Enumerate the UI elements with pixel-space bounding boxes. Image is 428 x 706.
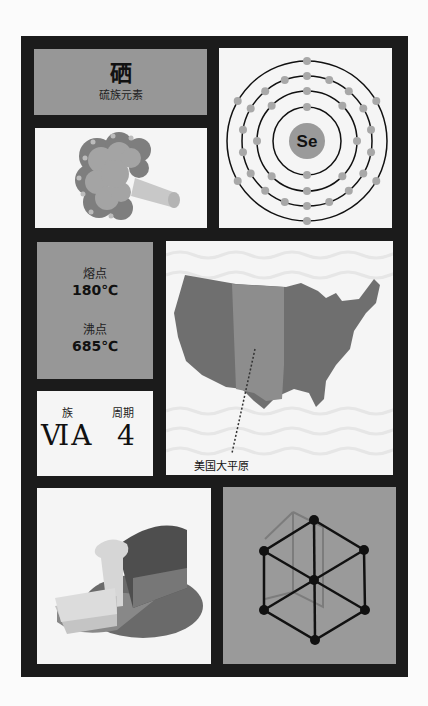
element-title-panel: 硒 硫族元素: [34, 49, 207, 115]
boiling-point-label: 沸点: [37, 320, 153, 337]
electron: [345, 187, 353, 195]
element-family: 硫族元素: [99, 89, 143, 103]
map-caption: 美国大平原: [194, 457, 249, 473]
electron: [268, 172, 276, 180]
atom-model-diagram: Se: [219, 48, 392, 228]
period-label: 周期: [112, 404, 134, 420]
group-label: 族: [62, 404, 73, 420]
electron: [325, 76, 333, 84]
bread-icon: [37, 488, 211, 664]
melting-point-label: 熔点: [37, 264, 153, 281]
nucleus-symbol: Se: [297, 132, 318, 151]
electron: [281, 198, 289, 206]
electron: [234, 97, 242, 105]
broccoli-panel: [35, 128, 207, 228]
electron: [281, 76, 289, 84]
electron: [239, 126, 247, 134]
melting-point-value: 180℃: [37, 282, 153, 298]
electron: [372, 97, 380, 105]
bread-panel: [37, 488, 211, 664]
electron: [367, 148, 375, 156]
electron: [303, 57, 311, 65]
electron: [261, 187, 269, 195]
boiling-point-value: 685℃: [37, 338, 153, 354]
electron: [338, 172, 346, 180]
electron: [303, 171, 311, 179]
electron: [268, 102, 276, 110]
electron: [367, 126, 375, 134]
electron: [234, 177, 242, 185]
atom-model-panel: Se: [219, 48, 392, 228]
electron: [303, 187, 311, 195]
broccoli-icon: [35, 128, 207, 228]
map-panel: 美国大平原: [166, 241, 393, 475]
usa-map: [166, 241, 393, 475]
element-name: 硒: [110, 61, 132, 87]
temperature-panel: 熔点 180℃ 沸点 685℃: [37, 242, 153, 379]
electron: [253, 137, 261, 145]
electron: [372, 177, 380, 185]
group-period-panel: 族 周期 ⅥA 4: [37, 391, 153, 476]
electron: [247, 170, 255, 178]
electron: [247, 105, 255, 113]
crystal-structure-panel: [223, 487, 396, 664]
electron: [303, 72, 311, 80]
electron: [303, 202, 311, 210]
period-value: 4: [117, 419, 135, 452]
electron: [261, 87, 269, 95]
electron: [303, 103, 311, 111]
electron: [359, 170, 367, 178]
electron: [303, 87, 311, 95]
electron: [359, 105, 367, 113]
electron: [345, 87, 353, 95]
electron: [325, 198, 333, 206]
electron: [303, 217, 311, 225]
electron: [239, 148, 247, 156]
electron: [338, 102, 346, 110]
group-value: ⅥA: [41, 419, 93, 452]
crystal-lattice-diagram: [223, 487, 396, 664]
electron: [353, 137, 361, 145]
